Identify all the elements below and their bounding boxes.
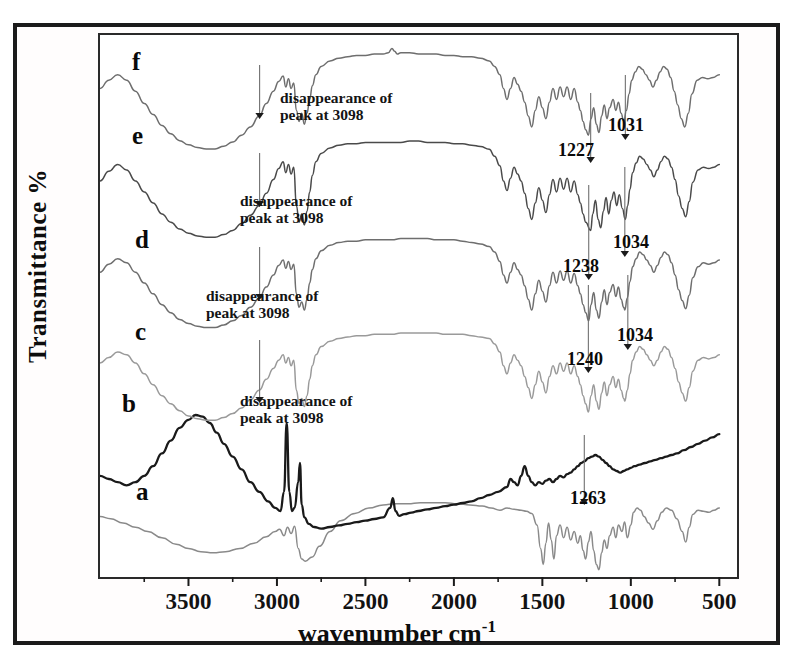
x-tick-label-3500: 3500: [143, 589, 233, 615]
x-axis-title: wavenumber cm-1: [0, 617, 794, 649]
annotation-f-line2: peak at 3098: [280, 106, 364, 123]
annotation-arrows: [255, 65, 632, 505]
annotation-e-line2: peak at 3098: [240, 209, 324, 226]
curve-label-a: a: [136, 478, 149, 506]
x-tick-label-1000: 1000: [586, 589, 676, 615]
peak-label-1034-d: 1034: [613, 232, 649, 253]
annotation-e-line1: disappearance of: [240, 192, 352, 209]
curve-label-b: b: [122, 390, 136, 418]
curve-label-e: e: [132, 122, 143, 150]
peak-label-1227: 1227: [558, 140, 594, 161]
peak-label-1031: 1031: [608, 115, 644, 136]
spectrum-curve-b: [100, 415, 719, 529]
ftir-spectra-figure: Transmittance % 350030002500200015001000…: [0, 0, 794, 664]
peak-label-1238: 1238: [563, 256, 599, 277]
annotation-c-line2: peak at 3098: [240, 409, 324, 426]
peak-label-1034-c: 1034: [617, 325, 653, 346]
x-axis-title-exponent: -1: [482, 617, 496, 636]
x-tick-label-2500: 2500: [320, 589, 410, 615]
curve-label-f: f: [132, 48, 140, 76]
annotation-f-line1: disappearance of: [280, 89, 392, 106]
annotation-e: disappearance of peak at 3098: [240, 192, 352, 226]
x-tick-label-500: 500: [674, 589, 764, 615]
x-tick-label-1500: 1500: [497, 589, 587, 615]
annotation-f: disappearance of peak at 3098: [280, 89, 392, 123]
annotation-c: disappearance of peak at 3098: [240, 392, 352, 426]
curve-label-c: c: [135, 318, 146, 346]
x-tick-label-2000: 2000: [409, 589, 499, 615]
peak-label-1263: 1263: [570, 488, 606, 509]
spectrum-curve-e: [100, 141, 719, 237]
peak-label-1240: 1240: [567, 349, 603, 370]
x-axis-title-text: wavenumber cm: [298, 619, 482, 648]
x-tick-label-3000: 3000: [232, 589, 322, 615]
annotation-d: disappearance of peak at 3098: [206, 287, 318, 321]
curve-label-d: d: [135, 226, 149, 254]
annotation-c-line1: disappearance of: [240, 392, 352, 409]
y-axis-title: Transmittance %: [24, 136, 52, 396]
annotation-d-line1: disappearance of: [206, 287, 318, 304]
annotation-d-line2: peak at 3098: [206, 304, 290, 321]
